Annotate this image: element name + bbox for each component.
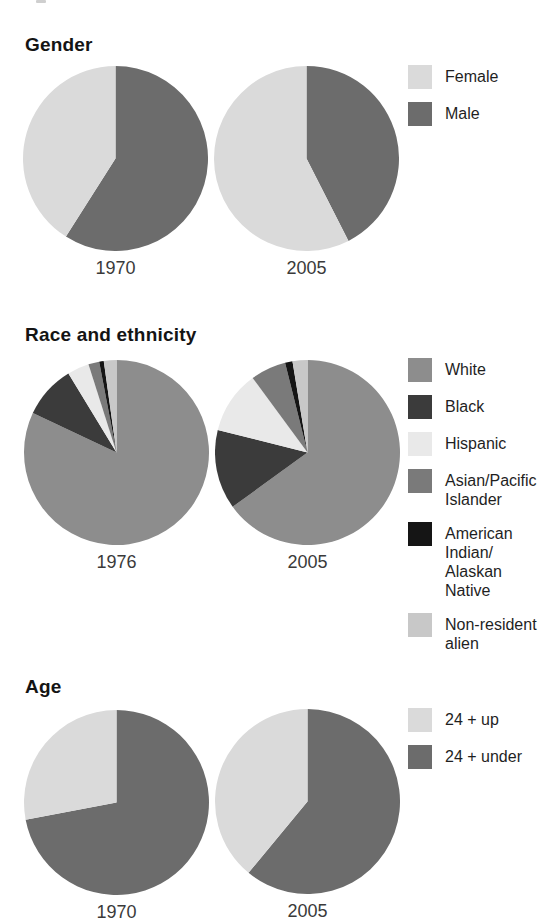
- legend-item-female: Female: [408, 65, 542, 89]
- legend-label-hispanic: Hispanic: [445, 432, 506, 453]
- legend-age: 24 + up 24 + under: [408, 708, 542, 782]
- pie-year-label-race-2005: 2005: [215, 552, 400, 573]
- legend-gender: Female Male: [408, 65, 542, 139]
- legend-item-black: Black: [408, 395, 542, 419]
- pie-chart-race-1976: [24, 360, 209, 545]
- legend-label-male: Male: [445, 102, 480, 123]
- legend-label-black: Black: [445, 395, 484, 416]
- legend-swatch-hispanic: [408, 432, 432, 456]
- pie-figure-gender-1970: 1970: [23, 66, 208, 279]
- legend-swatch-black: [408, 395, 432, 419]
- pie-year-label-age-1970: 1970: [24, 902, 209, 922]
- legend-swatch-white: [408, 358, 432, 382]
- pie-figure-race-1976: 1976: [24, 360, 209, 573]
- legend-label-female: Female: [445, 65, 498, 86]
- pie-chart-age-2005: [215, 709, 400, 894]
- pie-figure-age-1970: 1970: [24, 710, 209, 922]
- pie-year-label-age-2005: 2005: [215, 901, 400, 922]
- page: Gender 1970 2005 Female Male Race and et…: [0, 0, 546, 922]
- legend-item-24-and-under: 24 + under: [408, 745, 542, 769]
- legend-item-white: White: [408, 358, 542, 382]
- legend-label-white: White: [445, 358, 486, 379]
- legend-swatch-asian-pacific-islander: [408, 469, 432, 493]
- legend-swatch-female: [408, 65, 432, 89]
- legend-label-non-resident-alien: Non-resident alien: [445, 613, 537, 653]
- section-title-race-and-ethnicity: Race and ethnicity: [25, 324, 196, 346]
- slice-24-up: [24, 710, 117, 820]
- legend-label-asian-pacific-islander: Asian/Pacific Islander: [445, 469, 537, 509]
- pie-chart-age-1970: [24, 710, 209, 895]
- pie-year-label-gender-1970: 1970: [23, 258, 208, 279]
- legend-swatch-american-indian-alaskan-native: [408, 522, 432, 546]
- legend-swatch-24-and-under: [408, 745, 432, 769]
- pie-figure-age-2005: 2005: [215, 709, 400, 922]
- legend-label-24-and-up: 24 + up: [445, 708, 499, 729]
- pie-year-label-gender-2005: 2005: [214, 258, 399, 279]
- legend-item-american-indian-alaskan-native: American Indian/ Alaskan Native: [408, 522, 542, 600]
- section-title-gender: Gender: [25, 34, 93, 56]
- legend-item-hispanic: Hispanic: [408, 432, 542, 456]
- legend-label-american-indian-alaskan-native: American Indian/ Alaskan Native: [445, 522, 513, 600]
- legend-swatch-non-resident-alien: [408, 613, 432, 637]
- pie-chart-race-2005: [215, 360, 400, 545]
- legend-race-and-ethnicity: White Black Hispanic Asian/Pacific Islan…: [408, 358, 542, 666]
- pie-figure-gender-2005: 2005: [214, 66, 399, 279]
- scan-artifact-mark: [36, 0, 46, 3]
- pie-year-label-race-1976: 1976: [24, 552, 209, 573]
- legend-swatch-male: [408, 102, 432, 126]
- legend-item-24-and-up: 24 + up: [408, 708, 542, 732]
- legend-swatch-24-and-up: [408, 708, 432, 732]
- pie-figure-race-2005: 2005: [215, 360, 400, 573]
- legend-item-male: Male: [408, 102, 542, 126]
- section-title-age: Age: [25, 676, 62, 698]
- pie-chart-gender-2005: [214, 66, 399, 251]
- pie-chart-gender-1970: [23, 66, 208, 251]
- legend-item-asian-pacific-islander: Asian/Pacific Islander: [408, 469, 542, 509]
- legend-item-non-resident-alien: Non-resident alien: [408, 613, 542, 653]
- legend-label-24-and-under: 24 + under: [445, 745, 522, 766]
